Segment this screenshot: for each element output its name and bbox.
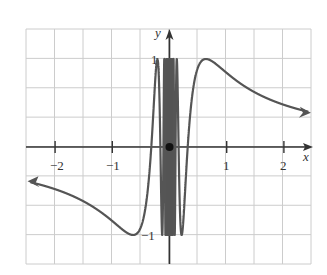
x-tick-label-neg1: −1 bbox=[106, 158, 120, 173]
x-tick-label-2: 2 bbox=[280, 158, 287, 173]
x-tick-label-1: 1 bbox=[223, 158, 230, 173]
y-tick-label-1: 1 bbox=[151, 52, 158, 67]
x-axis-label: x bbox=[302, 149, 309, 164]
plot-area: −2 −1 1 2 x y 1 −1 bbox=[0, 0, 327, 275]
y-axis-label: y bbox=[153, 25, 161, 40]
y-tick-label-neg1: −1 bbox=[141, 228, 155, 243]
x-tick-label-neg2: −2 bbox=[50, 158, 64, 173]
